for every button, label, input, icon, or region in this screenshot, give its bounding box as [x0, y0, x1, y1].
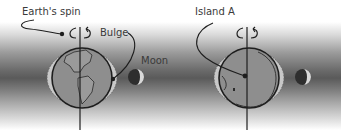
spin-leader-line: [21, 20, 62, 34]
right-panel: Island A: [195, 6, 311, 130]
left-panel: Earth's spin Bulge Moon: [21, 6, 168, 130]
moon-label: Moon: [141, 55, 168, 66]
spin-leader-dot: [60, 32, 64, 36]
bulge-leader-dot: [111, 77, 115, 81]
tide-diagram: Earth's spin Bulge Moon Island A: [0, 0, 341, 135]
diagram-canvas: Earth's spin Bulge Moon Island A: [0, 0, 341, 135]
island-a-dot: [243, 74, 248, 79]
earths-spin-label: Earth's spin: [22, 6, 81, 17]
bulge-label: Bulge: [100, 27, 128, 38]
island-a-label: Island A: [195, 6, 235, 17]
small-island: [233, 88, 235, 91]
right-earth: [219, 48, 279, 108]
